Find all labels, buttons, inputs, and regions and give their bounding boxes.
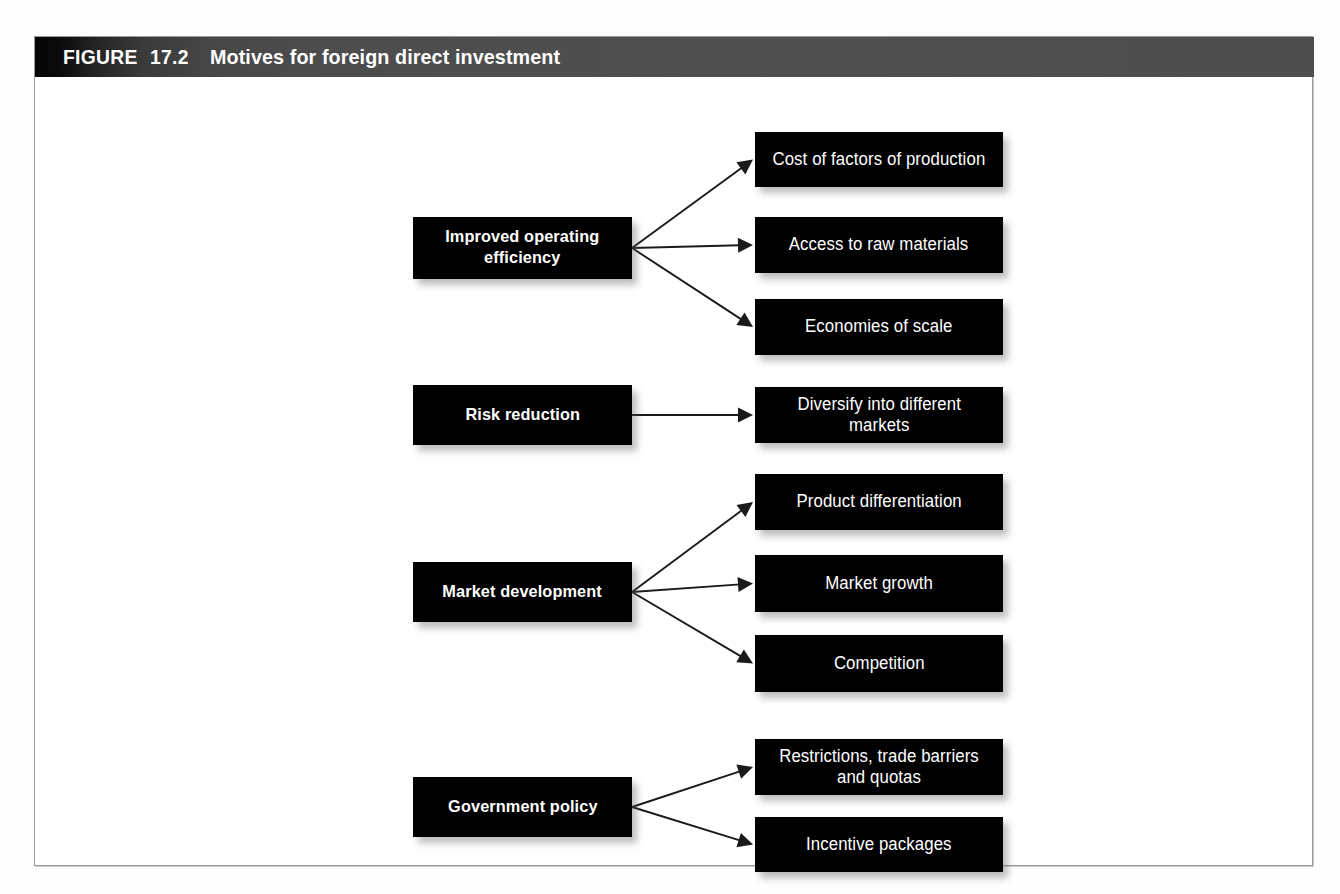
node-box-line: Diversify into different — [797, 394, 961, 415]
node-box-label: Cost of factors of production — [768, 149, 990, 170]
node-box-label: Improved operatingefficiency — [442, 227, 603, 268]
node-box-line: Restrictions, trade barriers — [779, 746, 979, 767]
node-box-line: Competition — [834, 653, 925, 674]
node-box-undefined: Improved operatingefficiency — [413, 217, 632, 279]
node-box-label: Diversify into differentmarkets — [794, 394, 964, 437]
figure-number: 17.2 — [150, 45, 189, 69]
figure-title: Motives for foreign direct investment — [210, 45, 560, 69]
page-canvas: FIGURE 17.2 Motives for foreign direct i… — [0, 0, 1340, 894]
figure-frame: FIGURE 17.2 Motives for foreign direct i… — [34, 36, 1313, 866]
node-box-line: Product differentiation — [796, 491, 961, 512]
arrow-undefined-to-cost-of-factors-of-production — [632, 160, 753, 249]
node-box-undefined: Market development — [413, 562, 632, 622]
figure-header-banner: FIGURE 17.2 Motives for foreign direct i… — [35, 37, 1314, 77]
node-box-line: Economies of scale — [805, 316, 952, 337]
node-box-access-to-raw-materials: Access to raw materials — [755, 217, 1003, 273]
node-box-line: Incentive packages — [806, 834, 952, 855]
node-box-line: markets — [797, 415, 961, 436]
node-box-product-differentiation: Product differentiation — [755, 474, 1003, 530]
node-box-line: Risk reduction — [465, 405, 580, 426]
node-box-line: Access to raw materials — [789, 234, 969, 255]
node-box-competition: Competition — [755, 635, 1003, 692]
arrow-undefined-to-market-growth — [632, 577, 753, 592]
arrow-undefined-to-competition — [632, 592, 753, 664]
figure-label: FIGURE — [63, 45, 138, 69]
node-box-label: Incentive packages — [803, 834, 955, 855]
arrow-undefined-to-access-to-raw-materials — [632, 238, 753, 253]
arrow-undefined-to-product-differentiation — [632, 502, 753, 592]
diagram-canvas: Improved operatingefficiencyCost of fact… — [35, 77, 1314, 866]
figure-header-inner: FIGURE 17.2 Motives for foreign direct i… — [63, 37, 583, 77]
node-box-line: and quotas — [779, 767, 979, 788]
node-box-market-growth: Market growth — [755, 555, 1003, 612]
node-box-incentive-packages: Incentive packages — [755, 817, 1003, 872]
node-box-diversify-into-different-markets: Diversify into differentmarkets — [755, 387, 1003, 443]
arrow-connector-layer — [35, 77, 1314, 866]
node-box-label: Risk reduction — [463, 405, 582, 426]
arrow-undefined-to-diversify-into-different-markets — [632, 408, 753, 423]
node-box-line: Improved operating — [445, 227, 599, 248]
node-box-line: efficiency — [445, 248, 599, 269]
node-box-line: Market development — [443, 582, 603, 603]
node-box-label: Government policy — [445, 797, 601, 818]
node-box-line: Government policy — [448, 797, 597, 818]
arrow-undefined-to-economies-of-scale — [632, 248, 753, 327]
node-box-label: Product differentiation — [793, 491, 965, 512]
node-box-undefined: Government policy — [413, 777, 632, 837]
node-box-line: Market growth — [825, 573, 933, 594]
node-box-label: Competition — [832, 653, 926, 674]
arrow-undefined-to-restrictions-trade-barriers-and-quotas — [632, 765, 753, 807]
node-box-label: Market growth — [823, 573, 935, 594]
node-box-undefined: Risk reduction — [413, 385, 632, 445]
node-box-label: Economies of scale — [802, 316, 956, 337]
node-box-cost-of-factors-of-production: Cost of factors of production — [755, 132, 1003, 187]
arrow-undefined-to-incentive-packages — [632, 807, 753, 847]
node-box-label: Restrictions, trade barriersand quotas — [775, 746, 983, 789]
node-box-label: Access to raw materials — [785, 234, 972, 255]
node-box-line: Cost of factors of production — [773, 149, 986, 170]
node-box-economies-of-scale: Economies of scale — [755, 299, 1003, 355]
node-box-restrictions-trade-barriers-and-quotas: Restrictions, trade barriersand quotas — [755, 739, 1003, 795]
node-box-label: Market development — [439, 582, 605, 603]
